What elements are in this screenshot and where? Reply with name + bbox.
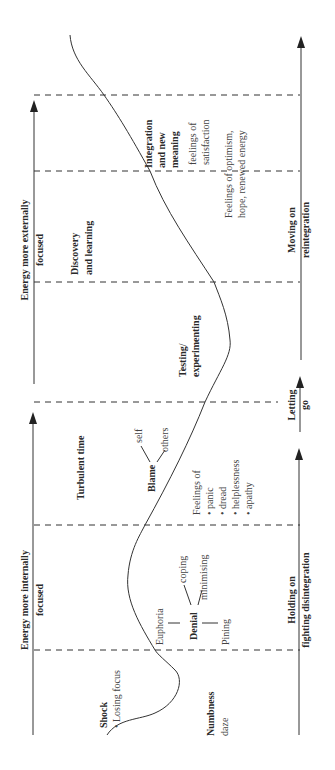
stage-numbness: Numbness daze <box>205 691 230 736</box>
svg-text:• dread: • dread <box>217 487 228 515</box>
svg-text:daze: daze <box>219 717 230 736</box>
svg-text:• panic: • panic <box>204 487 215 515</box>
svg-text:Blame: Blame <box>146 464 157 492</box>
svg-text:Shock: Shock <box>98 701 109 728</box>
svg-text:Turbulent time: Turbulent time <box>75 435 86 500</box>
svg-text:meaning: meaning <box>169 131 180 168</box>
svg-text:focused: focused <box>34 583 45 616</box>
arrow-up-icon <box>29 412 37 424</box>
svg-text:minimising: minimising <box>198 554 209 600</box>
phase-moving-on: Moving on <box>286 207 297 253</box>
stage-dividers <box>34 95 300 650</box>
svg-text:satisfaction: satisfaction <box>200 119 211 165</box>
svg-text:Euphoria: Euphoria <box>154 608 165 645</box>
stage-shock: Shock • Losing focus <box>98 670 122 728</box>
svg-text:Discovery: Discovery <box>69 233 80 275</box>
svg-text:Numbness: Numbness <box>205 691 216 736</box>
svg-text:• Losing focus: • Losing focus <box>111 670 122 728</box>
svg-text:reintegration: reintegration <box>300 202 311 258</box>
svg-text:Testing/: Testing/ <box>177 343 188 377</box>
left-axis <box>29 100 38 735</box>
svg-text:coping: coping <box>177 556 188 583</box>
axis-label-external: Energy more externally <box>19 200 30 301</box>
svg-text:self: self <box>133 428 144 443</box>
svg-text:Denial: Denial <box>188 612 199 640</box>
stage-blame: Blame self others <box>133 427 170 492</box>
svg-text:experimenting: experimenting <box>190 315 201 377</box>
stage-denial: Denial Euphoria coping minimising Pining <box>154 554 231 645</box>
svg-text:hope, renewed energy: hope, renewed energy <box>236 130 247 218</box>
svg-text:feelings of: feelings of <box>187 122 198 165</box>
svg-text:Feelings of: Feelings of <box>191 470 202 515</box>
svg-text:focused: focused <box>34 233 45 266</box>
svg-text:• helplessness: • helplessness <box>230 459 241 515</box>
svg-text:Pining: Pining <box>220 619 231 645</box>
svg-text:and new: and new <box>156 131 167 168</box>
arrow-up-icon <box>296 376 304 388</box>
phase-holding-on: Holding on <box>286 576 297 624</box>
svg-text:others: others <box>159 427 170 452</box>
axis-label-internal: Energy more internally <box>19 550 30 650</box>
svg-text:Feelings of optimism,: Feelings of optimism, <box>223 131 234 219</box>
svg-text:and learning: and learning <box>83 221 94 275</box>
phase-letting-go: Letting <box>286 389 297 420</box>
stage-turbulent-time: Turbulent time <box>75 435 86 500</box>
stage-testing: Testing/ experimenting <box>177 315 201 377</box>
arrow-up-icon <box>295 448 303 460</box>
svg-text:Integration: Integration <box>143 119 154 168</box>
stage-discovery: Discovery and learning <box>69 221 94 275</box>
change-curve-diagram: Energy more externally focused Energy mo… <box>0 0 335 770</box>
svg-text:• apathy: • apathy <box>243 482 254 515</box>
stage-feelings-optimism: Feelings of optimism, hope, renewed ener… <box>223 130 247 218</box>
stage-feelings-negative: Feelings of • panic • dread • helplessne… <box>191 459 254 515</box>
stage-feelings-satisfaction: feelings of satisfaction <box>187 119 211 165</box>
svg-text:go: go <box>299 400 310 410</box>
stage-integration: Integration and new meaning <box>143 119 180 168</box>
arrow-up-icon <box>30 100 38 112</box>
svg-text:fighting disintegration: fighting disintegration <box>300 552 311 648</box>
arrow-up-icon <box>297 36 305 48</box>
